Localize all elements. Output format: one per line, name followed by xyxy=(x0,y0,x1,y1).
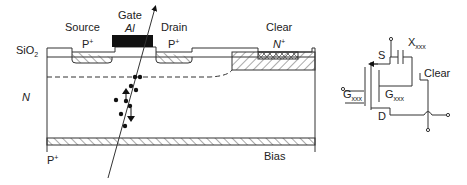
drain-doping-label: P+ xyxy=(168,36,179,50)
gate-label: Gate xyxy=(118,9,142,21)
circuit-capacitor-label: Xxxx xyxy=(408,36,426,53)
source-implant xyxy=(72,52,112,63)
equivalent-circuit xyxy=(341,37,449,131)
circuit-gate-internal-label: Gxxx xyxy=(385,88,404,105)
gate-internal-text: G xyxy=(385,88,394,100)
back-sup: + xyxy=(54,154,58,161)
source-doping-label: P+ xyxy=(82,36,93,50)
hole-up-arrow-icon xyxy=(122,88,130,94)
clear-label: Clear xyxy=(266,21,292,33)
gate-external-text: G xyxy=(343,88,352,100)
capacitor-sub: xxx xyxy=(415,43,426,50)
clear-doping-text: N xyxy=(273,38,281,50)
source-label: Source xyxy=(65,21,100,33)
bias-label: Bias xyxy=(264,150,285,162)
drain-doping-sup: + xyxy=(175,38,179,45)
electron-down-arrow-icon xyxy=(127,116,135,122)
gate-internal-sub: xxx xyxy=(394,95,405,102)
gate-external-sub: xxx xyxy=(352,95,363,102)
source-doping-sup: + xyxy=(89,38,93,45)
drain-label: Drain xyxy=(161,21,187,33)
gate-material-label: Al xyxy=(125,22,135,34)
circuit-clear-label: Clear xyxy=(424,67,450,79)
bulk-label: N xyxy=(22,91,30,103)
back-contact-label: P+ xyxy=(47,152,58,166)
back-contact xyxy=(47,138,315,145)
oxide-label: SiO2 xyxy=(16,44,38,61)
clear-doping-label: N+ xyxy=(273,36,285,50)
circuit-drain-label: D xyxy=(378,110,386,122)
oxide-text: SiO xyxy=(16,44,34,56)
oxide-sub: 2 xyxy=(34,51,38,58)
clear-contact xyxy=(258,52,298,59)
device-cross-section xyxy=(47,47,315,152)
charge-carriers xyxy=(114,75,142,128)
clear-doping-sup: + xyxy=(281,38,285,45)
circuit-gate-external-label: Gxxx xyxy=(343,88,362,105)
circuit-source-label: S xyxy=(378,49,385,61)
drain-implant xyxy=(156,52,192,63)
